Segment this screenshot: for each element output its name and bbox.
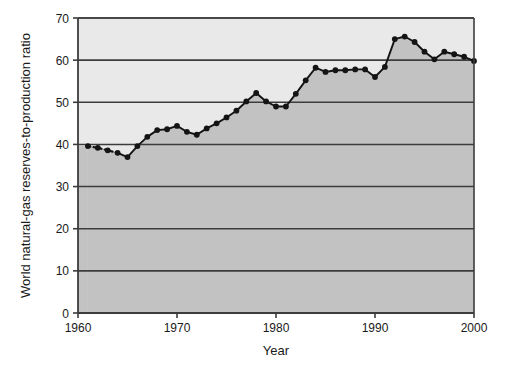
data-point-marker [352, 67, 358, 73]
data-point-marker [362, 67, 368, 73]
data-point-marker [412, 39, 418, 45]
series-area-fill-edge [78, 146, 88, 313]
data-point-marker [263, 99, 269, 105]
data-point-marker [461, 54, 467, 60]
data-point-marker [243, 99, 249, 105]
data-point-marker [194, 132, 200, 138]
y-axis-tick-label: 20 [56, 222, 70, 236]
data-point-marker [214, 120, 220, 126]
y-axis-tick-label: 50 [56, 96, 70, 110]
x-axis-tick-label: 2000 [461, 321, 488, 335]
chart-svg: 01020304050607019601970198019902000YearW… [0, 0, 510, 370]
data-point-marker [402, 34, 408, 40]
y-axis-tick-label: 40 [56, 138, 70, 152]
data-point-marker [184, 129, 190, 135]
data-point-marker [95, 145, 101, 151]
data-point-marker [432, 56, 438, 62]
data-point-marker [293, 91, 299, 97]
data-point-marker [372, 74, 378, 80]
data-point-marker [441, 49, 447, 55]
y-axis-tick-label: 30 [56, 180, 70, 194]
data-point-marker [125, 154, 131, 160]
data-point-marker [323, 69, 329, 75]
data-point-marker [273, 104, 279, 110]
data-point-marker [303, 77, 309, 83]
y-axis-tick-label: 0 [62, 307, 69, 321]
data-point-marker [234, 108, 240, 114]
data-point-marker [164, 126, 170, 132]
y-axis-title: World natural-gas reserves-to-production… [18, 33, 33, 298]
data-point-marker [451, 51, 457, 57]
data-point-marker [154, 127, 160, 133]
x-axis-tick-label: 1970 [164, 321, 191, 335]
y-axis-tick-label: 70 [56, 12, 70, 26]
data-point-marker [144, 134, 150, 140]
data-point-marker [85, 143, 91, 149]
y-axis-tick-label: 60 [56, 54, 70, 68]
data-point-marker [174, 123, 180, 129]
data-point-marker [313, 65, 319, 71]
data-point-marker [253, 90, 259, 96]
data-point-marker [333, 67, 339, 73]
data-point-marker [105, 147, 111, 153]
data-point-marker [135, 143, 141, 149]
x-axis-tick-label: 1990 [362, 321, 389, 335]
chart-figure: 01020304050607019601970198019902000YearW… [0, 0, 510, 370]
data-point-marker [204, 126, 210, 132]
data-point-marker [283, 104, 289, 110]
x-axis-title: Year [263, 343, 290, 358]
data-point-marker [115, 150, 121, 156]
data-point-marker [422, 49, 428, 55]
x-axis-tick-label: 1960 [65, 321, 92, 335]
y-axis-tick-label: 10 [56, 264, 70, 278]
data-point-marker [224, 115, 230, 121]
data-point-marker [382, 64, 388, 70]
x-axis-tick-label: 1980 [263, 321, 290, 335]
data-point-marker [342, 67, 348, 73]
data-point-marker [392, 36, 398, 42]
